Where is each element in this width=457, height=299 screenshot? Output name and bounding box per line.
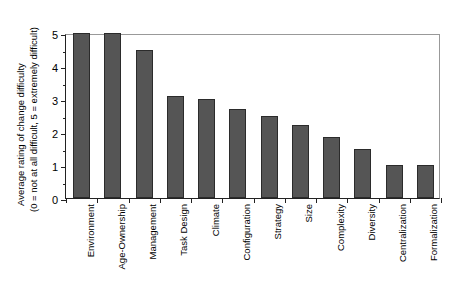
x-axis-label-formalization: Formalization	[428, 204, 439, 261]
x-tick	[129, 198, 130, 203]
bar-age-ownership	[104, 33, 121, 198]
x-tick	[191, 198, 192, 203]
bar-diversity	[354, 149, 371, 199]
bar-strategy	[261, 116, 278, 199]
bar-task-design	[167, 96, 184, 198]
plot-area: 012345	[65, 34, 440, 199]
x-tick	[441, 198, 442, 203]
x-axis-label-size: Size	[303, 204, 314, 222]
x-axis-label-task-design: Task Design	[178, 204, 189, 256]
bar-complexity	[323, 137, 340, 198]
x-axis-label-management: Management	[147, 204, 158, 259]
x-tick	[410, 198, 411, 203]
x-axis-label-diversity: Diversity	[366, 204, 377, 240]
x-tick	[66, 198, 67, 203]
x-tick	[222, 198, 223, 203]
x-axis-label-age-ownership: Age-Ownership	[116, 204, 127, 269]
y-tick-label-1: 1	[52, 161, 58, 173]
bar-configuration	[229, 109, 246, 198]
x-axis-label-configuration: Configuration	[241, 204, 252, 261]
x-tick	[347, 198, 348, 203]
y-tick-label-2: 2	[52, 128, 58, 140]
x-tick	[160, 198, 161, 203]
x-tick	[254, 198, 255, 203]
x-axis-label-climate: Climate	[210, 204, 221, 236]
bar-climate	[198, 99, 215, 198]
bar-management	[136, 50, 153, 199]
bar-formalization	[417, 165, 434, 198]
x-axis-label-environment: Environment	[85, 204, 96, 257]
y-tick-label-4: 4	[52, 62, 58, 74]
bar-centralization	[386, 165, 403, 198]
y-axis-title-line-1: Average rating of change difficulty	[15, 63, 26, 206]
x-tick	[97, 198, 98, 203]
x-axis-label-strategy: Strategy	[272, 204, 283, 239]
y-axis-title: Average rating of change difficulty (0 =…	[0, 0, 34, 212]
x-axis-label-complexity: Complexity	[335, 204, 346, 251]
y-tick-label-3: 3	[52, 95, 58, 107]
bar-size	[292, 125, 309, 198]
bar-environment	[73, 33, 90, 198]
x-tick	[316, 198, 317, 203]
x-tick	[285, 198, 286, 203]
y-tick-label-0: 0	[52, 194, 58, 206]
x-axis-labels: EnvironmentAge-OwnershipManagementTask D…	[65, 204, 440, 299]
y-axis-title-line-2: (0 = not at all difficult, 5 = extremely…	[28, 27, 39, 212]
bar-chart: Average rating of change difficulty (0 =…	[0, 0, 457, 299]
x-tick	[379, 198, 380, 203]
bar-series	[66, 35, 439, 198]
x-axis-label-centralization: Centralization	[397, 204, 408, 262]
y-tick-label-5: 5	[52, 29, 58, 41]
